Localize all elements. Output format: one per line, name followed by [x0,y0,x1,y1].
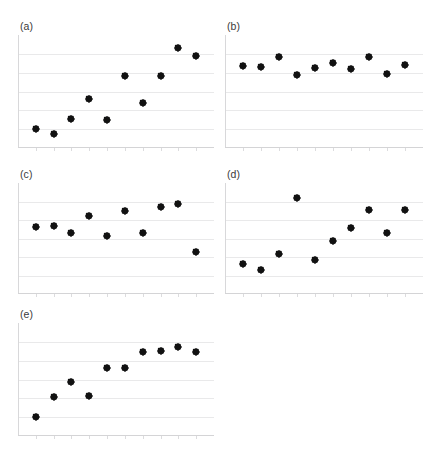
x-axis-tick [125,294,126,297]
data-point [138,99,146,107]
x-axis-tick [351,148,352,151]
data-point [293,194,301,202]
panel-e: (e) [18,308,214,436]
y-axis-spine [18,35,19,148]
plot-area [18,323,214,436]
x-axis-tick [333,294,334,297]
x-axis-tick [261,148,262,151]
data-point [192,51,200,59]
x-axis-tick [261,294,262,297]
x-axis-spine [225,147,423,148]
data-point [138,348,146,356]
x-axis-tick [315,294,316,297]
gridline [18,417,214,418]
x-axis-tick [107,436,108,439]
data-point [174,199,182,207]
panel-label: (c) [20,168,33,180]
x-axis-tick [125,436,126,439]
gridline [18,73,214,74]
x-axis-tick [243,148,244,151]
gridline [18,398,214,399]
data-point [156,347,164,355]
y-axis-spine [18,183,19,294]
data-point [85,94,93,102]
plot-area [18,35,214,148]
gridline [225,239,423,240]
x-axis-tick [161,148,162,151]
x-axis-tick [196,294,197,297]
gridline [225,110,423,111]
data-point [156,202,164,210]
data-point [365,206,373,214]
data-point [383,229,391,237]
x-axis-tick [71,436,72,439]
data-point [174,44,182,52]
y-axis-spine [18,323,19,436]
gridline [225,276,423,277]
gridline [225,202,423,203]
x-axis-tick [161,436,162,439]
gridline [18,257,214,258]
plot-area [18,183,214,294]
panel-a: (a) [18,20,214,148]
gridline [18,342,214,343]
data-point [257,266,265,274]
gridline [18,380,214,381]
x-axis-tick [297,294,298,297]
panel-b: (b) [225,20,423,148]
x-axis-tick [54,294,55,297]
gridline [225,54,423,55]
panel-label: (e) [20,308,33,320]
data-point [103,364,111,372]
x-axis-tick [243,294,244,297]
data-point [347,224,355,232]
data-point [85,392,93,400]
x-axis-tick [297,148,298,151]
data-point [174,342,182,350]
x-axis-tick [143,436,144,439]
y-axis-spine [225,183,226,294]
gridline [18,239,214,240]
x-axis-tick [178,148,179,151]
x-axis-tick [54,148,55,151]
y-axis-spine [225,35,226,148]
panel-label: (b) [227,20,240,32]
x-axis-tick [161,294,162,297]
x-axis-tick [333,148,334,151]
data-point [156,72,164,80]
data-point [401,61,409,69]
x-axis-tick [89,294,90,297]
gridline [18,220,214,221]
gridline [18,202,214,203]
x-axis-tick [71,294,72,297]
gridline [18,92,214,93]
x-axis-spine [225,293,423,294]
data-point [383,69,391,77]
gridline [18,54,214,55]
gridline [18,129,214,130]
data-point [311,64,319,72]
x-axis-tick [369,148,370,151]
gridline [18,361,214,362]
data-point [49,393,57,401]
x-axis-tick [143,294,144,297]
x-axis-tick [351,294,352,297]
scatter-plot-figure: (a)(b)(c)(d)(e) [0,0,433,451]
x-axis-tick [196,436,197,439]
gridline [225,257,423,258]
x-axis-tick [143,148,144,151]
x-axis-tick [125,148,126,151]
data-point [192,248,200,256]
gridline [225,73,423,74]
x-axis-spine [18,147,214,148]
data-point [32,125,40,133]
x-axis-tick [405,294,406,297]
data-point [32,413,40,421]
x-axis-tick [36,436,37,439]
x-axis-tick [315,148,316,151]
x-axis-tick [107,148,108,151]
x-axis-tick [36,148,37,151]
panel-d: (d) [225,168,423,294]
x-axis-tick [387,148,388,151]
plot-area [225,183,423,294]
